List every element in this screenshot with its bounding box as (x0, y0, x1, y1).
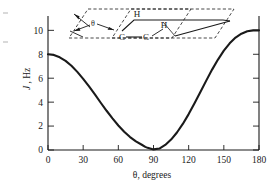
y-tick-label: 2 (38, 121, 43, 131)
atom-label-h-right: H (161, 20, 168, 30)
y-tick-label: 8 (38, 50, 43, 60)
karplus-curve-figure: θ H H C C 0246810 0306090120150180 J , H… (0, 0, 275, 190)
y-axis-title-units: , Hz (22, 68, 32, 84)
karplus-curve (48, 30, 259, 149)
y-tick-label: 6 (38, 74, 43, 84)
y-tick-label: 0 (38, 145, 43, 155)
theta-angle-label: θ (91, 19, 95, 28)
dihedral-angle-diagram: θ H H C C (69, 9, 234, 42)
y-tick-label: 4 (38, 98, 43, 108)
y-axis-title-symbol: J (22, 85, 32, 90)
x-tick-label: 90 (149, 155, 159, 165)
x-tick-label: 120 (182, 155, 197, 165)
y-tick-label: 10 (34, 26, 44, 36)
x-tick-label: 30 (78, 155, 88, 165)
y-axis-title: J , Hz (22, 68, 32, 90)
plot-canvas: θ H H C C 0246810 0306090120150180 J , H… (0, 0, 275, 190)
bond-right-vertex-lower (175, 21, 230, 36)
bond-h-right-to-c (152, 29, 163, 36)
bond-h-top-to-c (122, 20, 190, 31)
atom-label-h-top: H (134, 9, 141, 19)
axis-lines (48, 16, 259, 150)
y-axis-ticks: 0246810 (34, 26, 260, 156)
x-tick-label: 0 (46, 155, 51, 165)
bond-right-vertex-upper (190, 20, 230, 21)
atom-label-c-right: C (143, 32, 149, 42)
atom-label-c-left: C (119, 32, 125, 42)
x-tick-label: 180 (252, 155, 267, 165)
x-tick-label: 60 (114, 155, 124, 165)
x-tick-label: 150 (217, 155, 232, 165)
x-axis-title: θ, degrees (133, 170, 172, 180)
